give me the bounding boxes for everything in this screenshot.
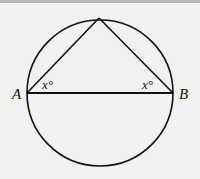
angle-label-b: x° bbox=[141, 77, 153, 92]
geometry-diagram: A B x° x° bbox=[0, 0, 200, 179]
point-label-a: A bbox=[11, 86, 22, 102]
point-label-b: B bbox=[179, 86, 188, 102]
angle-label-a: x° bbox=[41, 77, 53, 92]
